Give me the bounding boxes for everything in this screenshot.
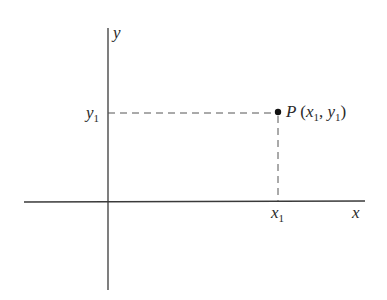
axes-svg xyxy=(0,0,387,300)
y-axis-label: y xyxy=(113,24,121,41)
coordinate-diagram: y x y1 x1 P (x1, y1) xyxy=(0,0,387,300)
comma: , xyxy=(319,102,328,121)
close-paren: ) xyxy=(341,102,347,121)
point-x-symbol: x xyxy=(306,102,314,121)
y1-subscript: 1 xyxy=(94,112,100,124)
x-axis xyxy=(24,201,365,202)
point-p-dot xyxy=(275,109,281,115)
x-axis-label: x xyxy=(352,204,360,221)
y1-symbol: y xyxy=(86,103,94,122)
point-p-label: P (x1, y1) xyxy=(286,103,346,120)
point-y-symbol: y xyxy=(328,102,336,121)
point-name: P xyxy=(286,102,296,121)
y1-tick-label: y1 xyxy=(86,104,99,121)
x1-symbol: x xyxy=(271,203,279,222)
x-axis-label-text: x xyxy=(352,203,360,222)
x1-subscript: 1 xyxy=(279,212,285,224)
x1-tick-label: x1 xyxy=(271,204,284,221)
y-axis-label-text: y xyxy=(113,23,121,42)
